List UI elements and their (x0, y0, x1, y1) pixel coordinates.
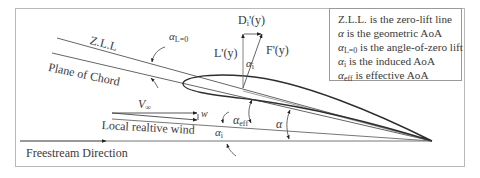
alpha-i-arrow (227, 144, 236, 156)
alpha-eff-arc (249, 100, 252, 123)
legend-box: Z.L.L. is the zero-lift line α is the ge… (329, 8, 462, 81)
alpha-l0-label: αL=0 (169, 30, 188, 42)
alpha-arc (287, 110, 290, 139)
freestream-direction-label: Freestream Direction (26, 146, 128, 161)
lift-label: L'(y) (214, 46, 237, 61)
legend-item-alpha-l0: αL=0 is the angle-of-zero lift (338, 40, 461, 54)
legend-item-alpha-eff: αeff is effective AoA (338, 68, 461, 82)
legend-item-zll: Z.L.L. is the zero-lift line (338, 12, 461, 26)
induced-drag-label: Di'(y) (238, 13, 265, 28)
alpha-eff-label: αeff (233, 113, 248, 128)
alpha-i-label: αi (215, 126, 223, 138)
alpha-l0-lower-arrow (151, 78, 158, 88)
resultant-force-label: F'(y) (266, 43, 289, 58)
v-inf-label: V∞ (138, 97, 151, 112)
alpha-l0-arc-arrow (152, 47, 165, 62)
alpha-i-force-label: αi (246, 57, 254, 69)
alpha-label: α (276, 117, 282, 132)
legend-item-alpha-i: αi is the induced AoA (338, 54, 461, 68)
legend-item-alpha: α is the geometric AoA (338, 26, 461, 40)
alpha-eff-small-arc (223, 112, 229, 123)
w-label: w (201, 108, 208, 119)
